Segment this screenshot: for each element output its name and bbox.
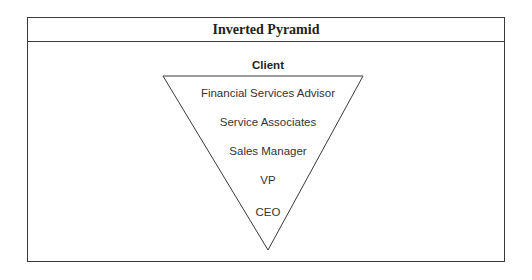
level-sales-manager: Sales Manager bbox=[168, 145, 368, 157]
level-vp: VP bbox=[168, 174, 368, 186]
level-service-associates: Service Associates bbox=[168, 116, 368, 128]
level-financial-services-advisor: Financial Services Advisor bbox=[168, 87, 368, 99]
level-ceo: CEO bbox=[168, 206, 368, 218]
inverted-pyramid-triangle bbox=[0, 0, 532, 280]
client-label: Client bbox=[168, 59, 368, 71]
